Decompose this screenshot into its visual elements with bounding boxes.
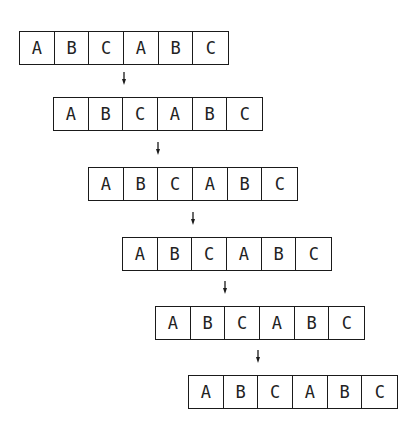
- letter-cell: B: [158, 238, 193, 270]
- letter-cell: C: [225, 307, 260, 339]
- letter-cell: B: [224, 376, 259, 408]
- sequence-row: ABCABC: [122, 237, 332, 271]
- letter-cell: B: [159, 32, 194, 64]
- sequence-row: ABCABC: [155, 306, 365, 340]
- letter-cell: A: [293, 376, 328, 408]
- down-arrow-icon: [189, 212, 197, 226]
- letter-cell: A: [156, 307, 191, 339]
- letter-cell: C: [227, 98, 262, 130]
- letter-cell: A: [227, 238, 262, 270]
- letter-cell: C: [362, 376, 397, 408]
- letter-cell: C: [193, 32, 228, 64]
- sequence-row: ABCABC: [188, 375, 398, 409]
- letter-cell: A: [20, 32, 55, 64]
- letter-cell: B: [55, 32, 90, 64]
- letter-cell: C: [89, 32, 124, 64]
- letter-cell: A: [260, 307, 295, 339]
- letter-cell: B: [191, 307, 226, 339]
- down-arrow-icon: [154, 142, 162, 156]
- letter-cell: A: [89, 168, 124, 200]
- letter-cell: A: [158, 98, 193, 130]
- down-arrow-icon: [120, 72, 128, 86]
- letter-cell: B: [193, 98, 228, 130]
- letter-cell: B: [89, 98, 124, 130]
- letter-cell: B: [228, 168, 263, 200]
- letter-cell: A: [54, 98, 89, 130]
- letter-cell: A: [189, 376, 224, 408]
- letter-cell: C: [329, 307, 364, 339]
- letter-cell: B: [295, 307, 330, 339]
- letter-cell: C: [158, 168, 193, 200]
- down-arrow-icon: [254, 350, 262, 364]
- letter-cell: C: [258, 376, 293, 408]
- letter-cell: A: [124, 32, 159, 64]
- letter-cell: B: [262, 238, 297, 270]
- sequence-row: ABCABC: [88, 167, 298, 201]
- sequence-row: ABCABC: [19, 31, 229, 65]
- letter-cell: C: [123, 98, 158, 130]
- letter-cell: A: [123, 238, 158, 270]
- letter-cell: C: [296, 238, 331, 270]
- letter-cell: B: [328, 376, 363, 408]
- letter-cell: C: [192, 238, 227, 270]
- down-arrow-icon: [221, 281, 229, 295]
- letter-cell: C: [262, 168, 297, 200]
- letter-cell: A: [193, 168, 228, 200]
- sequence-row: ABCABC: [53, 97, 263, 131]
- letter-cell: B: [124, 168, 159, 200]
